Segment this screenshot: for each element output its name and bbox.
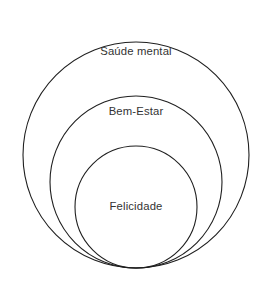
nested-circles-diagram: Saúde mental Bem-Estar Felicidade: [0, 0, 274, 288]
venn-diagram-canvas: Saúde mental Bem-Estar Felicidade: [0, 0, 274, 288]
label-felicidade: Felicidade: [110, 200, 163, 212]
label-bem-estar: Bem-Estar: [109, 105, 164, 117]
label-saude-mental: Saúde mental: [100, 45, 172, 57]
